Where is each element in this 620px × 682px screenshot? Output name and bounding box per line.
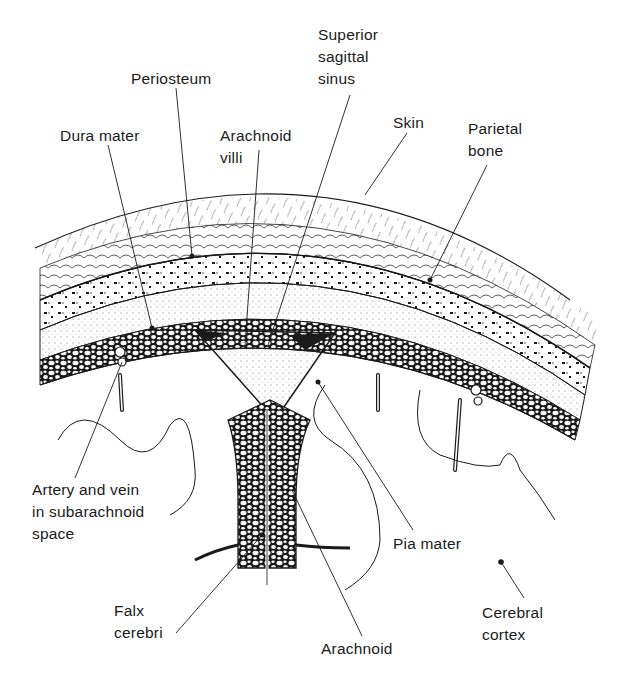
label-artery-vein: Artery and vein in subarachnoid space bbox=[32, 479, 144, 545]
label-cerebral-cortex: Cerebral cortex bbox=[482, 602, 543, 646]
label-superior-sagittal-sinus: Superior sagittal sinus bbox=[318, 24, 378, 90]
label-falx-cerebri: Falx cerebri bbox=[114, 600, 163, 644]
label-pia-mater: Pia mater bbox=[393, 533, 461, 555]
label-arachnoid: Arachnoid bbox=[321, 638, 393, 660]
label-dura-mater: Dura mater bbox=[60, 125, 140, 147]
label-periosteum: Periosteum bbox=[131, 68, 211, 90]
label-parietal-bone: Parietal bone bbox=[468, 118, 522, 162]
falx-cerebri-shape bbox=[228, 400, 310, 568]
label-arachnoid-villi: Arachnoid villi bbox=[220, 125, 292, 169]
label-skin: Skin bbox=[393, 112, 424, 134]
meninges-diagram bbox=[0, 0, 620, 682]
